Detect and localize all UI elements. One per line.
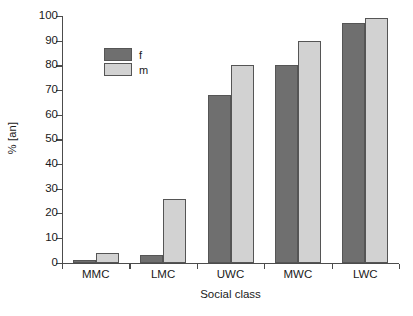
- bar-uwc-m: [231, 65, 254, 262]
- legend-label-m: m: [139, 64, 148, 76]
- bar-lwc-f: [342, 23, 365, 262]
- bar-chart: % [an] 0102030405060708090100 MMCLMCUWCM…: [0, 0, 413, 316]
- y-tick-label: 80: [45, 57, 58, 72]
- bar-mmc-f: [73, 260, 96, 262]
- legend-swatch-f: [104, 48, 132, 61]
- x-axis-label: Social class: [62, 288, 399, 300]
- bar-mwc-f: [275, 65, 298, 262]
- bar-group: [275, 17, 321, 263]
- y-tick-label: 30: [45, 181, 58, 196]
- y-tick-label: 100: [39, 8, 58, 23]
- y-tick-label: 90: [45, 33, 58, 48]
- bar-lmc-m: [163, 199, 186, 263]
- y-tick-label: 40: [45, 156, 58, 171]
- bar-mwc-m: [298, 41, 321, 263]
- legend-swatch-m: [104, 63, 132, 76]
- legend-label-f: f: [139, 49, 142, 61]
- bar-lmc-f: [140, 255, 163, 262]
- legend-item-m: m: [104, 62, 148, 77]
- y-tick-label: 50: [45, 131, 58, 146]
- legend-item-f: f: [104, 47, 148, 62]
- y-tick-label: 20: [45, 205, 58, 220]
- legend: f m: [104, 47, 148, 77]
- bar-group: [208, 17, 254, 263]
- x-tick-label-lwc: LWC: [325, 268, 405, 280]
- y-axis-line: [62, 16, 63, 264]
- bar-lwc-m: [365, 18, 388, 262]
- y-tick-label: 10: [45, 230, 58, 245]
- y-tick-label: 60: [45, 107, 58, 122]
- y-axis-label: % [an]: [6, 108, 18, 168]
- y-tick-label: 70: [45, 82, 58, 97]
- x-axis-line: [62, 263, 399, 264]
- bar-mmc-m: [96, 253, 119, 263]
- bar-uwc-f: [208, 95, 231, 263]
- bar-group: [342, 17, 388, 263]
